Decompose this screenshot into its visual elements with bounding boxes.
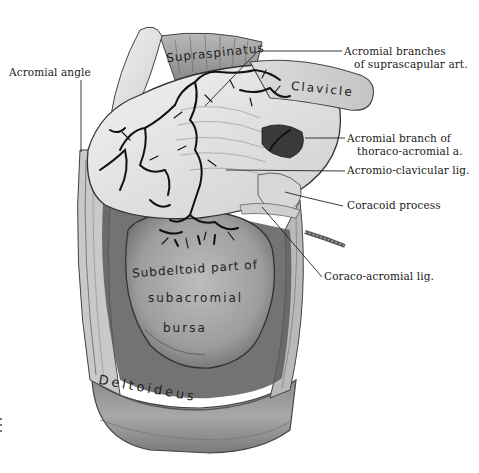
label-coracoid-process: Coracoid process bbox=[347, 199, 441, 212]
label-acromial-branches-line2: of suprascapular art. bbox=[344, 58, 468, 71]
bursa-label-line2: subacromial bbox=[148, 291, 243, 305]
label-acromial-branch-thoraco-acromial: Acromial branch of thoraco-acromial a. bbox=[347, 132, 463, 158]
label-acromio-clavicular-lig: Acromio-clavicular lig. bbox=[347, 164, 469, 177]
label-acromial-angle: Acromial angle bbox=[9, 66, 91, 79]
label-acromial-branches-line1: Acromial branches bbox=[344, 45, 446, 57]
label-thoraco-line1: Acromial branch of bbox=[347, 132, 451, 144]
margin-marks bbox=[0, 418, 2, 432]
bursa-label-line3: bursa bbox=[163, 321, 207, 335]
label-coraco-acromial-lig: Coraco-acromial lig. bbox=[324, 270, 434, 283]
anatomical-figure: Supraspinatus Clavicle Subdeltoid part o… bbox=[0, 0, 479, 473]
label-acromial-branches-suprascapular: Acromial branches of suprascapular art. bbox=[344, 45, 468, 71]
label-thoraco-line2: thoraco-acromial a. bbox=[347, 145, 463, 158]
